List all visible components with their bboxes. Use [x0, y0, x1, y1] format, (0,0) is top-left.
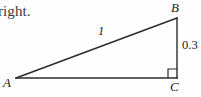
vertex-label-a: A [3, 76, 11, 89]
geometry-figure: right. A B C 1 0.3 [0, 0, 201, 97]
side-length-label-opposite-leg: 0.3 [182, 39, 198, 52]
vertex-label-c: C [170, 80, 179, 93]
side-length-label-hypotenuse: 1 [98, 25, 104, 38]
triangle-side-hypotenuse-ab [16, 18, 177, 78]
right-angle-marker-icon [168, 69, 177, 78]
vertex-label-b: B [171, 1, 179, 14]
